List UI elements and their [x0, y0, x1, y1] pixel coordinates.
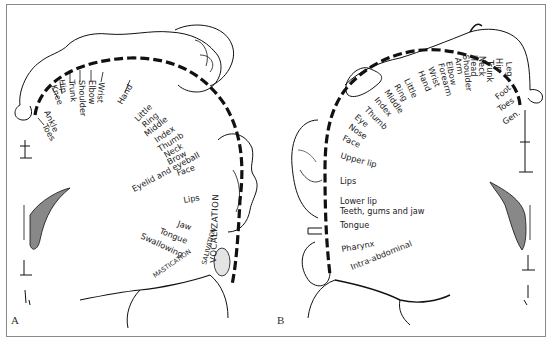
label-b-lips: Lips — [340, 176, 356, 186]
panel-letter-b: B — [277, 314, 284, 326]
label-b-tongue: Tongue — [339, 220, 369, 230]
label-lips: Lips — [183, 192, 201, 205]
label-jaw: Jaw — [175, 218, 193, 232]
label-lower-lip: Lower lip — [340, 196, 377, 206]
label-teeth-gums-jaw: Teeth, gums and jaw — [339, 206, 425, 216]
label-wrist: Wrist — [95, 82, 107, 104]
label-upper-lip: Upper lip — [339, 150, 377, 169]
panel-a-labels: Toes Ankle Knee Hip Trunk Shoulder Elbow… — [40, 78, 221, 279]
panel-b-labels: Gen. Toes Foot Leg Hip Trunk Neck Head S… — [339, 54, 522, 272]
panel-letter-a: A — [11, 314, 19, 326]
label-leg: Leg — [504, 61, 515, 76]
panel-a — [15, 25, 257, 328]
label-pharynx: Pharynx — [341, 238, 376, 254]
homunculus-diagram: Toes Ankle Knee Hip Trunk Shoulder Elbow… — [0, 0, 555, 345]
label-hand: Hand — [115, 82, 134, 106]
label-shoulder: Shoulder — [77, 80, 88, 117]
